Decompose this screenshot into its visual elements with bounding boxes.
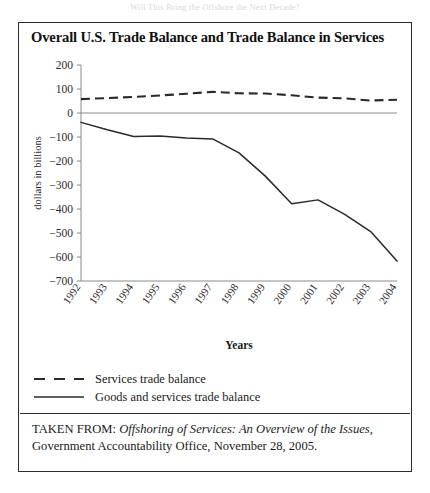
y-tick-label: 0	[67, 107, 73, 119]
x-tick-label: 1996	[166, 281, 189, 306]
caption-source-title: Offshoring of Services: An Overview of t…	[119, 422, 373, 436]
y-tick-label: −100	[49, 131, 73, 143]
y-axis-ticks: 2001000−100−200−300−400−500−600−700	[49, 59, 81, 287]
caption-divider	[20, 413, 410, 414]
x-tick-label: 1993	[87, 281, 110, 306]
y-tick-label: 200	[56, 59, 74, 71]
x-axis-ticks: 1992199319941995199619971998199920002001…	[60, 281, 399, 306]
series-services	[81, 92, 397, 101]
x-tick-label: 2001	[297, 281, 319, 306]
legend-label-services: Services trade balance	[95, 372, 206, 387]
trade-balance-line-chart: 2001000−100−200−300−400−500−600−700 1992…	[19, 53, 413, 353]
y-tick-label: −400	[49, 203, 73, 215]
y-axis-title: dollars in billions	[32, 136, 43, 210]
x-tick-label: 2003	[350, 281, 373, 306]
y-tick-label: −300	[49, 179, 73, 191]
chart-legend: Services trade balance Goods and service…	[33, 370, 393, 406]
x-tick-label: 1994	[113, 281, 136, 306]
x-tick-label: 1997	[192, 281, 215, 306]
y-tick-label: 100	[56, 83, 74, 95]
caption-prefix: TAKEN FROM:	[32, 422, 119, 436]
legend-swatch-solid-icon	[33, 391, 85, 403]
figure-caption: TAKEN FROM: Offshoring of Services: An O…	[32, 421, 402, 455]
x-tick-label: 1995	[139, 281, 162, 306]
chart-title: Overall U.S. Trade Balance and Trade Bal…	[31, 29, 403, 46]
x-axis-title: Years	[225, 339, 253, 351]
legend-item-services: Services trade balance	[33, 370, 393, 388]
y-tick-label: −500	[49, 227, 73, 239]
legend-swatch-dashed-icon	[33, 373, 85, 385]
series-goods-and-services	[81, 122, 397, 261]
x-tick-label: 2002	[324, 281, 346, 306]
plot-area: 2001000−100−200−300−400−500−600−700 1992…	[19, 53, 413, 353]
x-tick-label: 2000	[271, 281, 294, 306]
figure-container: Overall U.S. Trade Balance and Trade Bal…	[18, 22, 412, 472]
legend-item-goods-and-services: Goods and services trade balance	[33, 388, 393, 406]
x-tick-label: 1998	[218, 281, 241, 306]
x-tick-label: 1999	[245, 281, 268, 306]
y-tick-label: −200	[49, 155, 73, 167]
running-header: Will This Bring the Offshore the Next De…	[0, 0, 430, 12]
legend-label-goods-and-services: Goods and services trade balance	[95, 390, 260, 405]
caption-rest: Government Accountability Office, Novemb…	[32, 439, 317, 453]
y-tick-label: −600	[49, 251, 73, 263]
x-tick-label: 2004	[376, 281, 399, 306]
